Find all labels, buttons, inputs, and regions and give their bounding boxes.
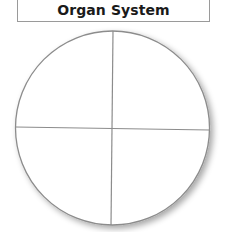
circle-svg — [0, 0, 226, 232]
quadrant-circle-diagram — [0, 0, 226, 232]
